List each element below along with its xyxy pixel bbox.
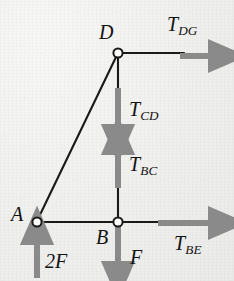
force-diagram-figure: D A B TDG TCD TBC TBE 2F F	[0, 0, 234, 281]
force-symbol-TDG: T	[167, 13, 178, 35]
force-label-TCD: TCD	[129, 99, 159, 119]
joint-label-A: A	[11, 204, 23, 224]
force-symbol-TBE: T	[174, 232, 185, 254]
force-label-TBE: TBE	[174, 233, 202, 253]
force-symbol-TCD: T	[129, 98, 140, 120]
force-subscript-BE: BE	[185, 242, 202, 257]
force-label-F: F	[130, 247, 142, 267]
force-subscript-BC: BC	[140, 163, 157, 178]
force-label-TBC: TBC	[129, 154, 157, 174]
member-AD	[37, 55, 117, 221]
joint-label-B: B	[96, 227, 108, 247]
truss-members	[37, 53, 184, 222]
joint-label-D: D	[99, 22, 113, 42]
force-subscript-CD: CD	[140, 108, 159, 123]
joint-D	[113, 48, 122, 57]
force-symbol-TBC: T	[129, 153, 140, 175]
joint-B	[113, 217, 122, 226]
force-label-2F: 2F	[45, 251, 67, 271]
force-label-TDG: TDG	[167, 14, 198, 34]
joint-A	[32, 217, 41, 226]
force-subscript-DG: DG	[178, 23, 197, 38]
